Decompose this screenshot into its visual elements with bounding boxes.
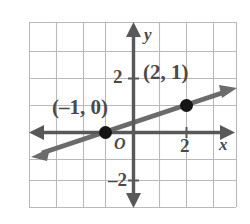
x-axis-label: x	[219, 136, 228, 153]
origin-label: O	[114, 136, 126, 152]
coordinate-plane-svg	[0, 0, 250, 224]
y-tick-label-neg2: –2	[108, 170, 127, 189]
axis-tick-marks	[128, 79, 187, 181]
x-tick-label-2: 2	[180, 136, 190, 155]
point-2-1	[180, 99, 193, 112]
graph-figure: (–1, 0) (2, 1) 2 –2 2 O y x	[0, 0, 250, 224]
y-tick-label-2: 2	[113, 67, 123, 86]
y-axis-label: y	[144, 26, 152, 43]
point-neg1-0	[99, 126, 112, 139]
point-label-neg1-0: (–1, 0)	[52, 97, 108, 118]
point-label-2-1: (2, 1)	[143, 62, 189, 83]
